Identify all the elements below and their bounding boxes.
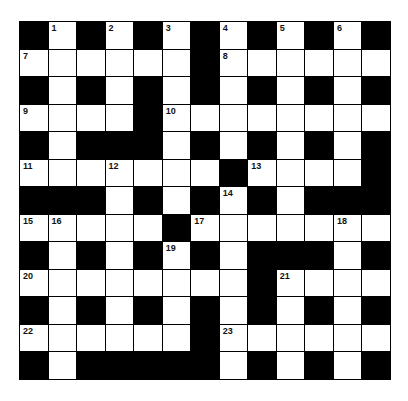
- crossword-cell[interactable]: [106, 297, 134, 324]
- crossword-cell[interactable]: [106, 187, 134, 214]
- crossword-cell[interactable]: [334, 325, 362, 352]
- crossword-cell[interactable]: [49, 297, 77, 324]
- crossword-cell[interactable]: [77, 325, 105, 352]
- crossword-cell[interactable]: [134, 50, 162, 77]
- crossword-cell[interactable]: [106, 77, 134, 104]
- crossword-cell[interactable]: [49, 242, 77, 269]
- crossword-cell[interactable]: 14: [220, 187, 248, 214]
- crossword-cell[interactable]: [49, 325, 77, 352]
- crossword-cell[interactable]: [248, 50, 276, 77]
- crossword-cell[interactable]: [220, 352, 248, 379]
- crossword-cell[interactable]: [49, 270, 77, 297]
- crossword-cell[interactable]: [362, 215, 390, 242]
- crossword-cell[interactable]: 7: [20, 50, 48, 77]
- crossword-cell[interactable]: [334, 160, 362, 187]
- crossword-cell[interactable]: [248, 215, 276, 242]
- crossword-cell[interactable]: [77, 50, 105, 77]
- crossword-cell[interactable]: [49, 160, 77, 187]
- crossword-cell[interactable]: [277, 215, 305, 242]
- crossword-cell[interactable]: [277, 50, 305, 77]
- crossword-cell[interactable]: [277, 297, 305, 324]
- crossword-cell[interactable]: [163, 270, 191, 297]
- crossword-cell[interactable]: [49, 352, 77, 379]
- crossword-cell[interactable]: [163, 132, 191, 159]
- crossword-cell[interactable]: [220, 77, 248, 104]
- crossword-cell[interactable]: [77, 215, 105, 242]
- crossword-cell[interactable]: [106, 325, 134, 352]
- crossword-cell[interactable]: [77, 160, 105, 187]
- crossword-cell[interactable]: [248, 325, 276, 352]
- crossword-cell[interactable]: 21: [277, 270, 305, 297]
- crossword-cell[interactable]: [106, 215, 134, 242]
- crossword-cell[interactable]: 19: [163, 242, 191, 269]
- crossword-cell[interactable]: [220, 270, 248, 297]
- crossword-cell[interactable]: [334, 352, 362, 379]
- crossword-cell[interactable]: 4: [220, 22, 248, 49]
- crossword-cell[interactable]: [134, 325, 162, 352]
- crossword-cell[interactable]: [305, 105, 333, 132]
- crossword-cell[interactable]: [334, 132, 362, 159]
- crossword-cell[interactable]: [163, 187, 191, 214]
- crossword-cell[interactable]: [277, 325, 305, 352]
- crossword-cell[interactable]: [220, 105, 248, 132]
- crossword-cell[interactable]: 6: [334, 22, 362, 49]
- crossword-cell[interactable]: [277, 132, 305, 159]
- crossword-cell[interactable]: [220, 242, 248, 269]
- crossword-cell[interactable]: [334, 270, 362, 297]
- crossword-cell[interactable]: 16: [49, 215, 77, 242]
- crossword-cell[interactable]: 8: [220, 50, 248, 77]
- crossword-cell[interactable]: [106, 242, 134, 269]
- crossword-cell[interactable]: [106, 270, 134, 297]
- crossword-cell[interactable]: 12: [106, 160, 134, 187]
- crossword-cell[interactable]: [362, 105, 390, 132]
- crossword-cell[interactable]: [334, 297, 362, 324]
- crossword-cell[interactable]: [305, 215, 333, 242]
- crossword-cell[interactable]: [305, 50, 333, 77]
- crossword-cell[interactable]: 13: [248, 160, 276, 187]
- crossword-cell[interactable]: [277, 105, 305, 132]
- crossword-cell[interactable]: [49, 50, 77, 77]
- crossword-cell[interactable]: [77, 270, 105, 297]
- crossword-cell[interactable]: [106, 50, 134, 77]
- crossword-cell[interactable]: [163, 50, 191, 77]
- crossword-cell[interactable]: 23: [220, 325, 248, 352]
- crossword-cell[interactable]: [277, 187, 305, 214]
- crossword-cell[interactable]: [134, 270, 162, 297]
- crossword-cell[interactable]: [77, 105, 105, 132]
- crossword-cell[interactable]: [220, 215, 248, 242]
- crossword-cell[interactable]: 15: [20, 215, 48, 242]
- crossword-cell[interactable]: 5: [277, 22, 305, 49]
- crossword-cell[interactable]: [305, 160, 333, 187]
- crossword-cell[interactable]: [334, 105, 362, 132]
- crossword-cell[interactable]: [220, 297, 248, 324]
- crossword-cell[interactable]: 17: [191, 215, 219, 242]
- crossword-cell[interactable]: [334, 242, 362, 269]
- crossword-cell[interactable]: [277, 77, 305, 104]
- crossword-cell[interactable]: 10: [163, 105, 191, 132]
- crossword-cell[interactable]: [191, 105, 219, 132]
- crossword-cell[interactable]: [362, 325, 390, 352]
- crossword-cell[interactable]: [49, 132, 77, 159]
- crossword-cell[interactable]: [362, 270, 390, 297]
- crossword-cell[interactable]: [305, 270, 333, 297]
- crossword-cell[interactable]: [362, 50, 390, 77]
- crossword-cell[interactable]: [49, 77, 77, 104]
- crossword-cell[interactable]: [134, 160, 162, 187]
- crossword-cell[interactable]: [163, 297, 191, 324]
- crossword-cell[interactable]: 1: [49, 22, 77, 49]
- crossword-cell[interactable]: [106, 105, 134, 132]
- crossword-cell[interactable]: [220, 132, 248, 159]
- crossword-cell[interactable]: 20: [20, 270, 48, 297]
- crossword-cell[interactable]: [277, 160, 305, 187]
- crossword-cell[interactable]: [191, 160, 219, 187]
- crossword-cell[interactable]: [49, 105, 77, 132]
- crossword-cell[interactable]: [277, 352, 305, 379]
- crossword-cell[interactable]: [163, 160, 191, 187]
- crossword-cell[interactable]: [248, 105, 276, 132]
- crossword-cell[interactable]: [134, 215, 162, 242]
- crossword-cell[interactable]: [305, 325, 333, 352]
- crossword-cell[interactable]: [191, 270, 219, 297]
- crossword-cell[interactable]: 9: [20, 105, 48, 132]
- crossword-cell[interactable]: 18: [334, 215, 362, 242]
- crossword-cell[interactable]: [334, 77, 362, 104]
